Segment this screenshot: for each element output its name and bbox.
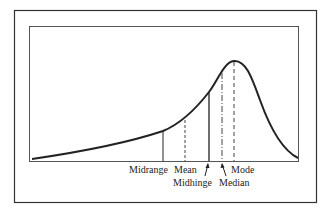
midhinge-label: Midhinge	[173, 178, 212, 188]
skewed-distribution-diagram	[0, 0, 329, 215]
distribution-curve	[32, 61, 298, 159]
mean-label: Mean	[174, 165, 197, 175]
midhinge-arrow	[205, 163, 210, 176]
median-arrow	[221, 163, 227, 176]
mode-label: Mode	[231, 165, 254, 175]
midrange-label: Midrange	[129, 165, 168, 175]
median-label: Median	[219, 178, 250, 188]
